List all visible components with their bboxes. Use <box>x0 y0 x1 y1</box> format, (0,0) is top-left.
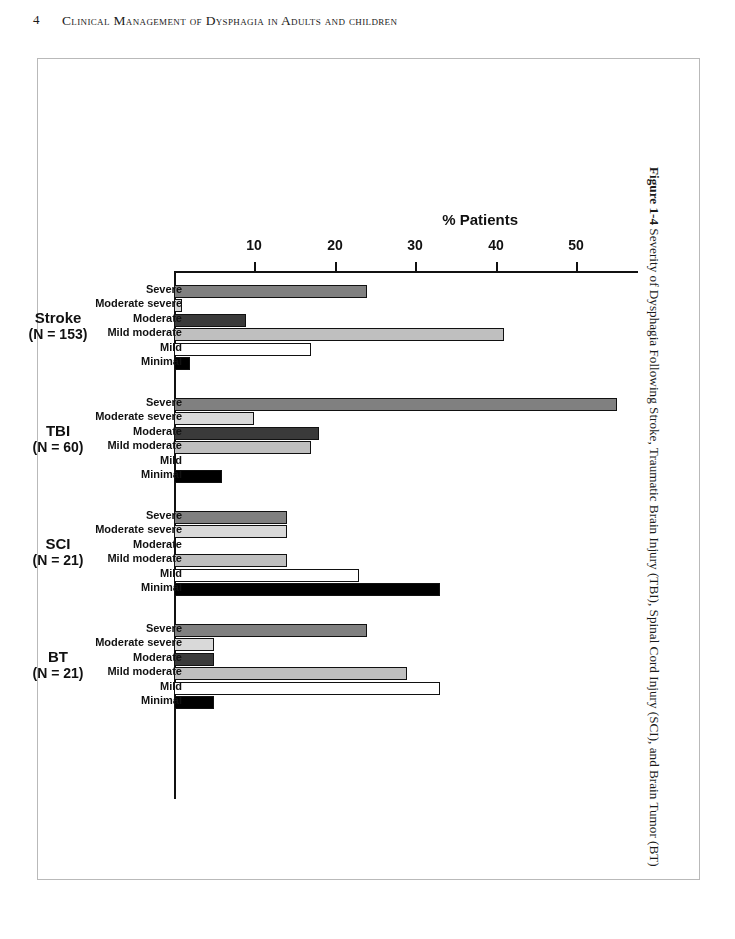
category-label: Moderate severe <box>108 411 182 423</box>
bar <box>174 569 359 582</box>
running-head: 4 Clinical Management of Dysphagia in Ad… <box>0 12 735 34</box>
group-n: (N = 21) <box>4 665 112 681</box>
axis-tick <box>496 262 498 272</box>
category-label: Mild moderate <box>108 440 182 452</box>
group-label: TBI(N = 60) <box>4 422 112 455</box>
page-number: 4 <box>33 12 40 28</box>
value-axis-line <box>176 271 638 273</box>
bar <box>174 413 255 426</box>
category-label: Severe <box>108 622 182 634</box>
category-label: Minimal <box>108 582 182 594</box>
bar <box>174 511 287 524</box>
bar <box>174 285 367 298</box>
category-label: Moderate severe <box>108 298 182 310</box>
group-n: (N = 21) <box>4 552 112 568</box>
bar <box>174 398 617 411</box>
chart-plot-area: 1020304050 SevereModerate severeModerate… <box>108 209 638 829</box>
bar <box>174 526 287 539</box>
figure-caption-text: Severity of Dysphagia Following Stroke, … <box>647 228 662 866</box>
bar <box>174 555 287 568</box>
bar <box>174 329 504 342</box>
category-label: Moderate <box>108 651 182 663</box>
axis-tick-label: 50 <box>560 237 594 253</box>
bar <box>174 668 407 681</box>
category-label: Severe <box>108 396 182 408</box>
category-label: Mild <box>108 680 182 692</box>
running-head-title: Clinical Management of Dysphagia in Adul… <box>62 13 397 29</box>
bar <box>174 427 319 440</box>
axis-tick <box>335 262 337 272</box>
category-label: Mild moderate <box>108 327 182 339</box>
group-label: SCI(N = 21) <box>4 535 112 568</box>
category-label: Moderate <box>108 425 182 437</box>
group-name: BT <box>4 648 112 665</box>
category-label: Mild moderate <box>108 666 182 678</box>
category-label: Mild <box>108 454 182 466</box>
bar <box>174 442 311 455</box>
bar <box>174 343 311 356</box>
category-label: Severe <box>108 509 182 521</box>
bar <box>174 682 440 695</box>
axis-tick-label: 10 <box>238 237 272 253</box>
axis-tick <box>416 262 418 272</box>
bar <box>174 314 246 327</box>
category-label: Minimal <box>108 469 182 481</box>
category-label: Minimal <box>108 695 182 707</box>
category-label: Moderate <box>108 538 182 550</box>
bar <box>174 584 440 597</box>
axis-tick-label: 20 <box>318 237 352 253</box>
axis-tick <box>255 262 257 272</box>
category-label: Moderate severe <box>108 637 182 649</box>
group-n: (N = 153) <box>4 326 112 342</box>
figure-frame: 1020304050 SevereModerate severeModerate… <box>37 58 700 880</box>
category-label: Mild <box>108 341 182 353</box>
group-name: SCI <box>4 535 112 552</box>
figure-caption-number: Figure 1-4 <box>647 167 662 225</box>
category-label: Moderate severe <box>108 524 182 536</box>
group-label: BT(N = 21) <box>4 648 112 681</box>
category-label: Mild <box>108 567 182 579</box>
group-label: Stroke(N = 153) <box>4 309 112 342</box>
group-n: (N = 60) <box>4 439 112 455</box>
figure-caption: Figure 1-4 Severity of Dysphagia Followi… <box>646 167 662 867</box>
axis-tick-label: 30 <box>399 237 433 253</box>
bar <box>174 624 367 637</box>
category-label: Mild moderate <box>108 553 182 565</box>
bar-chart: 1020304050 SevereModerate severeModerate… <box>108 209 638 829</box>
category-label: Moderate <box>108 312 182 324</box>
category-label: Severe <box>108 283 182 295</box>
group-name: Stroke <box>4 309 112 326</box>
group-name: TBI <box>4 422 112 439</box>
category-label: Minimal <box>108 356 182 368</box>
axis-tick <box>577 262 579 272</box>
value-axis-title: % Patients <box>442 211 518 228</box>
axis-tick-label: 40 <box>479 237 513 253</box>
